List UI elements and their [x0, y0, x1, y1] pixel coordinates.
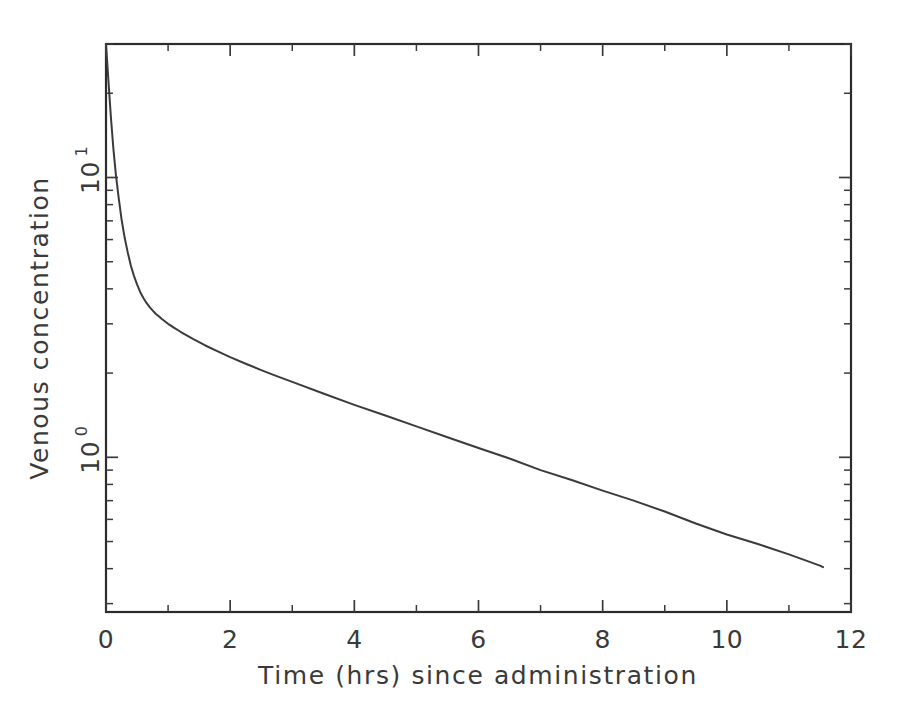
y-tick-label-base: 10: [76, 161, 105, 194]
y-tick-label-exponent: 0: [73, 426, 92, 436]
x-tick-label: 8: [594, 625, 610, 654]
x-tick-label: 0: [98, 625, 114, 654]
y-axis-label: Venous concentration: [25, 176, 54, 480]
x-axis-label: Time (hrs) since administration: [257, 661, 698, 690]
y-tick-label-base: 10: [76, 441, 105, 474]
x-tick-label: 12: [835, 625, 868, 654]
x-tick-label: 2: [222, 625, 238, 654]
y-tick-label-exponent: 1: [73, 146, 92, 156]
chart-figure: 100101 024681012 Time (hrs) since admini…: [0, 0, 906, 713]
x-tick-label: 6: [470, 625, 486, 654]
semilog-concentration-plot: 100101 024681012 Time (hrs) since admini…: [0, 0, 906, 713]
x-tick-label: 4: [346, 625, 362, 654]
x-tick-label: 10: [710, 625, 743, 654]
figure-background: [0, 0, 906, 713]
